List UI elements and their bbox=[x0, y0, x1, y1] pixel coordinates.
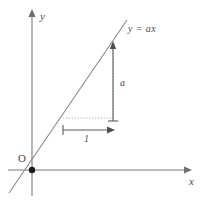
figure-canvas bbox=[0, 0, 201, 201]
origin-dot bbox=[29, 167, 35, 173]
origin-label: O bbox=[18, 153, 26, 164]
line-equation-label: y = ax bbox=[128, 24, 156, 34]
function-line bbox=[9, 20, 127, 193]
x-axis-label: x bbox=[189, 176, 194, 187]
y-axis-arrowhead bbox=[28, 9, 35, 17]
y-axis-label: y bbox=[40, 11, 45, 22]
rise-measure-arrowhead bbox=[110, 41, 116, 49]
rise-measure-label: a bbox=[120, 78, 125, 88]
x-axis-arrowhead bbox=[184, 166, 192, 173]
linear-function-figure: y x O y = ax a 1 bbox=[0, 0, 201, 201]
run-measure-arrowhead bbox=[107, 127, 115, 134]
run-measure-label: 1 bbox=[84, 134, 89, 144]
